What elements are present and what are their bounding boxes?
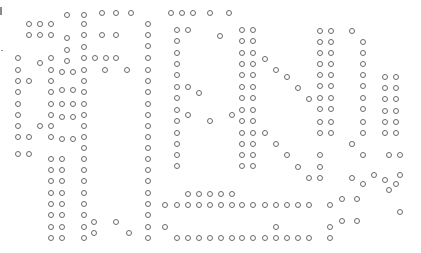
dot bbox=[382, 74, 388, 80]
dot bbox=[284, 235, 290, 241]
dot bbox=[145, 212, 151, 218]
dot bbox=[273, 202, 279, 208]
dot bbox=[15, 89, 21, 95]
dot bbox=[185, 84, 191, 90]
dot bbox=[382, 119, 388, 125]
dot bbox=[64, 58, 70, 64]
dot bbox=[145, 190, 151, 196]
dot bbox=[306, 96, 312, 102]
dot bbox=[102, 67, 108, 73]
dot bbox=[360, 152, 366, 158]
dot bbox=[37, 60, 43, 66]
dot bbox=[37, 32, 43, 38]
dot bbox=[328, 83, 334, 89]
dot bbox=[145, 156, 151, 162]
dot bbox=[113, 55, 119, 61]
dot bbox=[48, 134, 54, 140]
dot bbox=[81, 178, 87, 184]
dot bbox=[327, 224, 333, 230]
dot bbox=[239, 61, 245, 67]
dot bbox=[239, 235, 245, 241]
dot bbox=[81, 21, 87, 27]
dot bbox=[81, 12, 87, 18]
dot bbox=[81, 67, 87, 73]
dot bbox=[185, 27, 191, 33]
dot bbox=[328, 95, 334, 101]
dot bbox=[174, 27, 180, 33]
dot bbox=[59, 114, 65, 120]
dot bbox=[382, 130, 388, 136]
dot bbox=[59, 87, 65, 93]
dot bbox=[174, 50, 180, 56]
dot bbox=[126, 230, 132, 236]
dot bbox=[207, 202, 213, 208]
dot bbox=[317, 72, 323, 78]
dot bbox=[386, 187, 392, 193]
dot bbox=[250, 107, 256, 113]
dot bbox=[70, 136, 76, 142]
dot bbox=[393, 74, 399, 80]
dot bbox=[196, 90, 202, 96]
dot bbox=[327, 202, 333, 208]
dot bbox=[360, 83, 366, 89]
dot bbox=[48, 156, 54, 162]
dot bbox=[124, 67, 130, 73]
dot bbox=[81, 112, 87, 118]
dot bbox=[250, 38, 256, 44]
dot bbox=[328, 28, 334, 34]
dot bbox=[295, 85, 301, 91]
dot bbox=[185, 235, 191, 241]
dot bbox=[185, 202, 191, 208]
dot bbox=[48, 112, 54, 118]
dot bbox=[145, 167, 151, 173]
dot bbox=[226, 10, 232, 16]
dot bbox=[37, 123, 43, 129]
dot bbox=[218, 191, 224, 197]
dot bbox=[99, 32, 105, 38]
dot bbox=[328, 119, 334, 125]
dot bbox=[393, 108, 399, 114]
dot bbox=[317, 106, 323, 112]
dot bbox=[81, 235, 87, 241]
dot bbox=[239, 95, 245, 101]
dot bbox=[354, 196, 360, 202]
dot bbox=[59, 224, 65, 230]
dot bbox=[397, 152, 403, 158]
dot bbox=[185, 191, 191, 197]
dot-pattern bbox=[0, 0, 421, 253]
dot bbox=[328, 39, 334, 45]
dot bbox=[145, 112, 151, 118]
dot bbox=[284, 152, 290, 158]
dot bbox=[48, 21, 54, 27]
dot bbox=[15, 101, 21, 107]
dot bbox=[207, 191, 213, 197]
dot bbox=[15, 78, 21, 84]
dot bbox=[145, 101, 151, 107]
dot bbox=[26, 78, 32, 84]
dot bbox=[354, 218, 360, 224]
dot bbox=[59, 201, 65, 207]
dot bbox=[360, 95, 366, 101]
dot bbox=[317, 152, 323, 158]
dot bbox=[196, 235, 202, 241]
dot bbox=[145, 32, 151, 38]
dot bbox=[70, 114, 76, 120]
dot bbox=[145, 123, 151, 129]
dot bbox=[317, 83, 323, 89]
dot bbox=[190, 10, 196, 16]
dot bbox=[59, 136, 65, 142]
dot bbox=[393, 130, 399, 136]
dot bbox=[168, 10, 174, 16]
dot bbox=[174, 152, 180, 158]
dot bbox=[360, 39, 366, 45]
dot bbox=[328, 106, 334, 112]
dot bbox=[174, 61, 180, 67]
dot bbox=[196, 202, 202, 208]
dot bbox=[393, 85, 399, 91]
dot bbox=[250, 84, 256, 90]
dot bbox=[145, 55, 151, 61]
dot bbox=[250, 141, 256, 147]
dot bbox=[262, 56, 268, 62]
dot bbox=[48, 235, 54, 241]
dot bbox=[393, 96, 399, 102]
